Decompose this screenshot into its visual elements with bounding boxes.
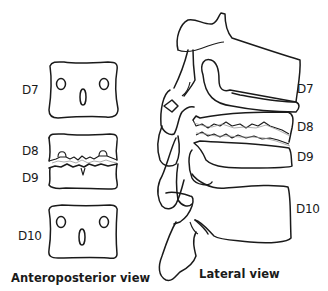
ap-view-drawing <box>49 62 118 258</box>
ap-vertebra-d7 <box>49 62 118 118</box>
ap-label-d9: D9 <box>22 171 38 185</box>
lateral-caption: Lateral view <box>199 267 280 281</box>
ap-label-d10: D10 <box>18 229 42 243</box>
ap-vertebra-d9 <box>49 164 117 189</box>
lateral-label-d7: D7 <box>297 82 313 96</box>
lateral-vertebra-d9 <box>189 141 292 185</box>
lateral-vertebra-d7 <box>202 60 299 112</box>
lateral-label-d8: D8 <box>297 120 313 134</box>
lateral-label-d10: D10 <box>296 202 320 216</box>
lateral-vertebra-d10 <box>166 174 291 243</box>
lateral-view-drawing <box>158 13 300 280</box>
ap-label-d7: D7 <box>22 83 38 97</box>
ap-vertebra-d8 <box>49 134 117 163</box>
lateral-label-d9: D9 <box>297 150 313 164</box>
ap-caption: Anteroposterior view <box>11 271 150 285</box>
ap-vertebra-d10 <box>49 205 117 258</box>
ap-label-d8: D8 <box>22 144 38 158</box>
vertebrae-diagram <box>0 0 328 291</box>
